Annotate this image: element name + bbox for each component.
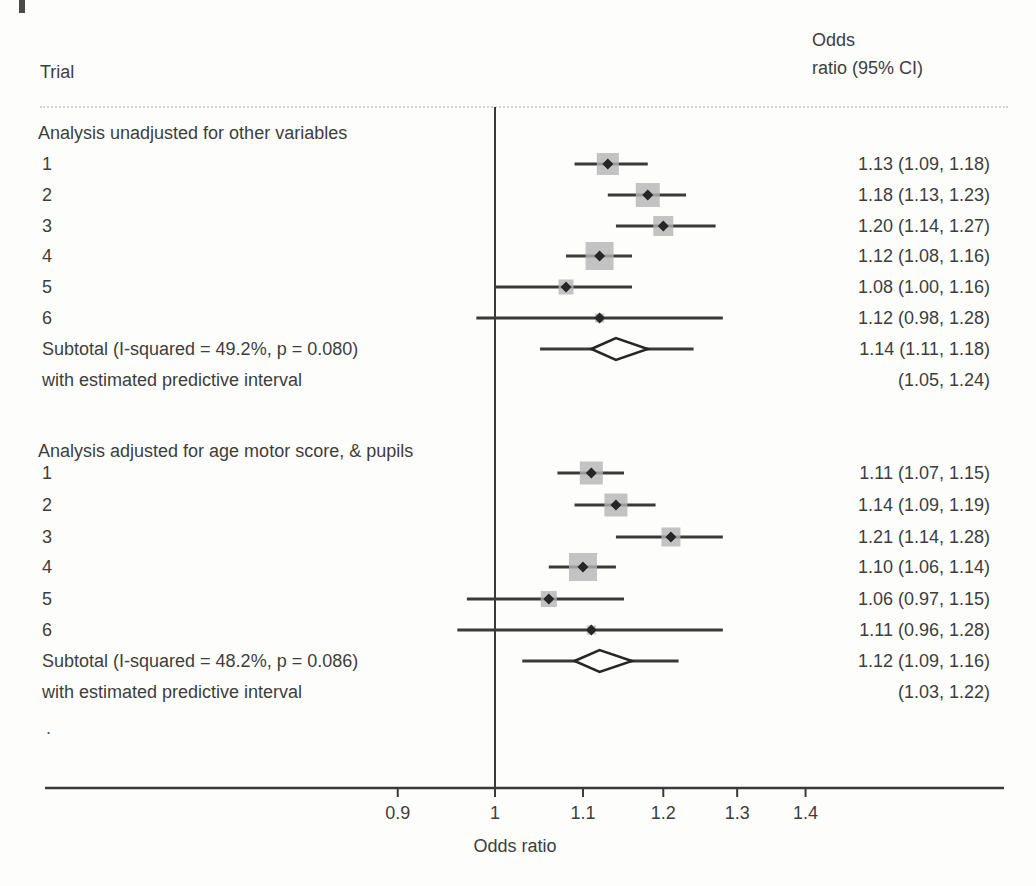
x-axis-tick-label: 1.4 bbox=[793, 803, 818, 824]
trial-label: 2 bbox=[42, 495, 52, 516]
trial-label: 6 bbox=[42, 620, 52, 641]
or-ci-value: 1.11 (0.96, 1.28) bbox=[859, 620, 990, 641]
trial-label: 3 bbox=[42, 216, 52, 237]
forest-plot-figure: Trial Odds ratio (95% CI) Analysis unadj… bbox=[0, 0, 1036, 886]
section-title: Analysis unadjusted for other variables bbox=[38, 123, 347, 144]
trial-label: 4 bbox=[42, 246, 52, 267]
trial-label: 4 bbox=[42, 557, 52, 578]
stray-dot-mark: . bbox=[46, 718, 51, 739]
or-ci-value: 1.10 (1.06, 1.14) bbox=[858, 557, 990, 578]
x-axis-tick-label: 1.1 bbox=[570, 803, 595, 824]
subtotal-diamond bbox=[591, 338, 647, 360]
x-axis-tick-label: 1.2 bbox=[651, 803, 676, 824]
trial-label: 1 bbox=[42, 463, 52, 484]
or-ci-value: 1.12 (0.98, 1.28) bbox=[858, 308, 990, 329]
subtotal-or-ci-value: 1.12 (1.09, 1.16) bbox=[858, 651, 990, 672]
trial-label: 5 bbox=[42, 589, 52, 610]
trial-label: 5 bbox=[42, 277, 52, 298]
subtotal-or-ci-value: 1.14 (1.11, 1.18) bbox=[859, 339, 990, 360]
subtotal-label: Subtotal (I-squared = 49.2%, p = 0.080) bbox=[42, 339, 358, 360]
predictive-interval-label: with estimated predictive interval bbox=[42, 682, 302, 703]
or-ci-value: 1.11 (1.07, 1.15) bbox=[859, 463, 990, 484]
or-ci-value: 1.14 (1.09, 1.19) bbox=[858, 495, 990, 516]
or-ci-value: 1.18 (1.13, 1.23) bbox=[858, 185, 990, 206]
x-axis-tick-label: 1 bbox=[490, 803, 500, 824]
or-ci-value: 1.08 (1.00, 1.16) bbox=[858, 277, 990, 298]
or-ci-value: 1.20 (1.14, 1.27) bbox=[858, 216, 990, 237]
predictive-interval-value: (1.03, 1.22) bbox=[898, 682, 990, 703]
x-axis-tick-label: 1.3 bbox=[725, 803, 750, 824]
predictive-interval-value: (1.05, 1.24) bbox=[898, 370, 990, 391]
trial-label: 1 bbox=[42, 154, 52, 175]
predictive-interval-label: with estimated predictive interval bbox=[42, 370, 302, 391]
x-axis-title: Odds ratio bbox=[473, 836, 556, 857]
or-ci-value: 1.12 (1.08, 1.16) bbox=[858, 246, 990, 267]
subtotal-label: Subtotal (I-squared = 48.2%, p = 0.086) bbox=[42, 651, 358, 672]
trial-label: 3 bbox=[42, 527, 52, 548]
section-title: Analysis adjusted for age motor score, &… bbox=[38, 441, 413, 462]
or-ci-value: 1.13 (1.09, 1.18) bbox=[858, 154, 990, 175]
or-ci-value: 1.06 (0.97, 1.15) bbox=[858, 589, 990, 610]
trial-label: 6 bbox=[42, 308, 52, 329]
x-axis-tick-label: 0.9 bbox=[385, 803, 410, 824]
trial-label: 2 bbox=[42, 185, 52, 206]
or-ci-value: 1.21 (1.14, 1.28) bbox=[858, 527, 990, 548]
subtotal-diamond bbox=[575, 650, 632, 672]
